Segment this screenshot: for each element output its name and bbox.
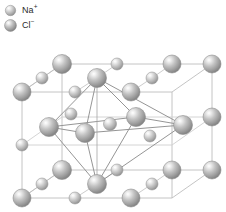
legend-item-na-plus: Na+ [4, 3, 74, 18]
ion-layer-top [13, 55, 221, 102]
ion-na [144, 130, 156, 142]
legend-item-cl-minus: Cl− [4, 18, 74, 33]
ion-na [146, 72, 158, 84]
ion-cl [53, 161, 72, 180]
ion-cl [203, 108, 221, 126]
ion-cl [163, 161, 181, 179]
ion-cl-octahedron-equator [174, 116, 193, 135]
ion-na [36, 72, 48, 84]
ion-cl [13, 189, 31, 207]
ion-na [69, 86, 81, 98]
sphere-icon [4, 4, 17, 17]
ion-cl-octahedron-equator [40, 118, 59, 137]
ion-layer-bottom [13, 161, 221, 208]
ion-layer-middle [16, 108, 221, 152]
ion-cl [122, 189, 140, 207]
ion-na-octahedron-centre [104, 118, 117, 131]
ion-cl [203, 55, 221, 73]
sphere-icon [4, 19, 17, 32]
ion-cl [122, 83, 140, 101]
ion-na [69, 192, 81, 204]
ion-na [16, 139, 28, 151]
ion-cl [163, 55, 181, 73]
legend-label-cl-minus: Cl− [22, 21, 35, 30]
ion-cl-octahedron-equator [76, 124, 95, 143]
ion-cl [13, 83, 31, 101]
ion-na [111, 164, 123, 176]
legend: Na+ Cl− [4, 3, 74, 33]
ion-na [65, 108, 77, 120]
ion-na [36, 178, 48, 190]
ion-cl-octahedron-apex-top [88, 69, 107, 88]
legend-label-na-plus: Na+ [22, 6, 38, 15]
nacl-lattice-figure: Na+ Cl− [0, 0, 226, 212]
ion-cl-octahedron-apex-bottom [88, 175, 107, 194]
ion-cl [53, 55, 72, 74]
ion-na [111, 58, 123, 70]
ion-cl [203, 161, 221, 179]
ion-cl-octahedron-equator [127, 108, 146, 127]
ion-na [146, 178, 158, 190]
